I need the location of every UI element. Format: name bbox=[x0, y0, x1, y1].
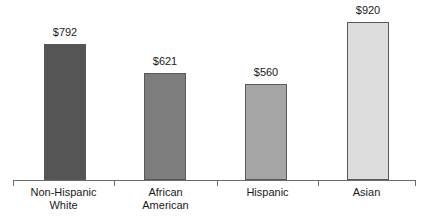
x-axis-label-line2-1: American bbox=[114, 199, 217, 212]
bar-rect-2[interactable] bbox=[245, 84, 287, 180]
x-axis-label-asian: Asian bbox=[318, 186, 415, 199]
x-axis-label-african-american: African American bbox=[114, 186, 217, 212]
plot-area: $792 $621 $560 $920 bbox=[0, 0, 428, 180]
bar-group-2: $560 bbox=[245, 0, 287, 180]
bar-group-3: $920 bbox=[347, 0, 389, 180]
bar-value-label-0: $792 bbox=[53, 26, 77, 38]
bar-group-0: $792 bbox=[44, 0, 86, 180]
bar-group-1: $621 bbox=[144, 0, 186, 180]
x-axis-label-line1-0: Non-Hispanic bbox=[30, 186, 96, 198]
x-axis-label-hispanic: Hispanic bbox=[217, 186, 318, 199]
bar-rect-1[interactable] bbox=[144, 73, 186, 180]
x-axis-label-line1-3: Asian bbox=[353, 186, 381, 198]
x-axis-line bbox=[13, 180, 416, 181]
bar-value-label-3: $920 bbox=[356, 4, 380, 16]
bar-rect-3[interactable] bbox=[347, 22, 389, 180]
bar-rect-0[interactable] bbox=[44, 44, 86, 180]
x-axis-category-labels: Non-Hispanic White African American Hisp… bbox=[0, 186, 428, 220]
x-axis-label-line2-0: White bbox=[13, 199, 114, 212]
x-axis-label-line1-1: African bbox=[148, 186, 182, 198]
bar-value-label-2: $560 bbox=[254, 66, 278, 78]
x-axis-label-non-hispanic-white: Non-Hispanic White bbox=[13, 186, 114, 212]
bar-value-label-1: $621 bbox=[153, 55, 177, 67]
bar-chart: $792 $621 $560 $920 Non-Hispanic White A… bbox=[0, 0, 428, 220]
x-axis-label-line1-2: Hispanic bbox=[246, 186, 288, 198]
